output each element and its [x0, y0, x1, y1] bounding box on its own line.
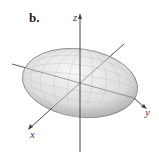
ellipsoid-figure: b. z y x	[0, 0, 159, 160]
x-axis	[30, 108, 52, 128]
z-axis-arrow	[78, 13, 82, 19]
ellipsoid-plot	[0, 0, 159, 160]
panel-label: b.	[29, 10, 39, 26]
z-axis-label: z	[73, 11, 77, 23]
x-axis-label: x	[30, 128, 35, 140]
y-axis-label: y	[145, 106, 150, 118]
